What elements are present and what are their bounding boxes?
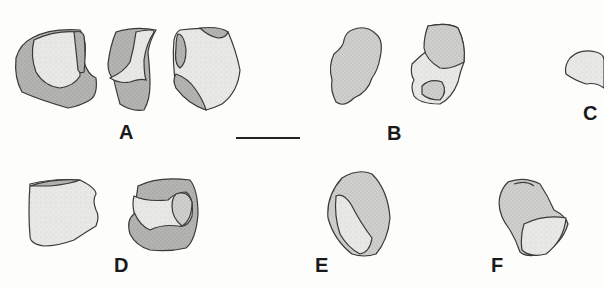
specimen-a-view-1 bbox=[16, 30, 97, 108]
panel-label-d: D bbox=[114, 255, 128, 275]
figure: A B C D E F bbox=[0, 0, 604, 288]
panel-label-a: A bbox=[119, 122, 133, 142]
panel-label-c: C bbox=[583, 103, 597, 123]
specimen-f bbox=[499, 179, 568, 255]
specimen-e bbox=[328, 172, 390, 256]
specimen-d-view-2 bbox=[129, 179, 198, 251]
panel-label-f: F bbox=[491, 255, 503, 275]
specimen-a-view-2 bbox=[108, 28, 156, 110]
specimen-b-view-2 bbox=[411, 24, 464, 104]
specimen-b-view-1 bbox=[330, 28, 381, 105]
scale-bar bbox=[236, 137, 300, 139]
specimen-a-view-3 bbox=[173, 28, 240, 111]
panel-label-b: B bbox=[387, 123, 401, 143]
panel-label-e: E bbox=[315, 255, 328, 275]
specimen-d-view-1 bbox=[29, 180, 98, 247]
specimen-c bbox=[566, 51, 604, 88]
specimen-drawings bbox=[0, 0, 604, 288]
